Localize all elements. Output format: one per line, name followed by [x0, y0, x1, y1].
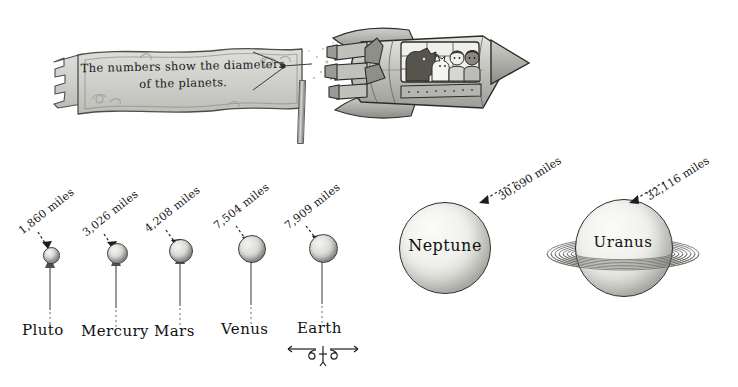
rocket-hull-band	[401, 84, 481, 98]
illustration-canvas: The numbers show the diameters of the pl…	[0, 0, 738, 387]
small-planets-group: 1,860 miles Pluto 3,026 miles Mercury 4,…	[0, 150, 380, 387]
neptune-pointer	[470, 180, 520, 212]
venus-sphere	[238, 235, 266, 263]
venus-name-label: Venus	[221, 320, 268, 338]
rocket-drawing	[305, 18, 537, 128]
rocket-ship	[305, 18, 535, 126]
planet-uranus[interactable]: Uranus	[549, 199, 693, 299]
banner-text: The numbers show the diameters of the pl…	[74, 56, 293, 94]
earth-name-label: Earth	[297, 319, 342, 337]
mars-sphere	[169, 239, 193, 263]
neptune-name-label: Neptune	[399, 236, 491, 255]
mercury-name-label: Mercury	[81, 322, 149, 340]
rocket-nose-cone	[491, 40, 529, 84]
earth-flourish-ornament	[286, 342, 360, 368]
uranus-name-label: Uranus	[575, 233, 671, 251]
mars-name-label: Mars	[154, 322, 195, 340]
banner-line-1: The numbers show the diameters	[81, 57, 285, 75]
earth-sphere	[309, 234, 338, 263]
tether-knot	[280, 63, 285, 68]
name-stems	[50, 259, 322, 310]
uranus-pointer	[620, 180, 670, 212]
pluto-sphere	[43, 247, 60, 264]
mercury-sphere	[107, 243, 128, 264]
planet-neptune[interactable]: Neptune	[399, 202, 493, 296]
scroll-banner: The numbers show the diameters of the pl…	[52, 44, 310, 112]
pluto-name-label: Pluto	[22, 321, 64, 339]
